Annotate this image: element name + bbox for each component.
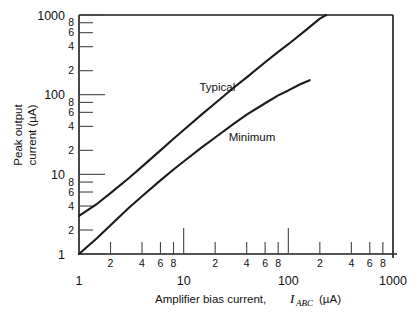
y-axis-ticks: [79, 15, 105, 254]
x-axis-title-subscript: ABC: [295, 298, 314, 308]
log-log-plot: 1101001000246824682468 11010010002468246…: [0, 0, 419, 318]
y-decade-label: 10: [51, 168, 65, 182]
y-axis-title-line2: current (µA): [26, 104, 38, 165]
x-minor-label: 2: [108, 257, 114, 269]
x-minor-label: 4: [348, 257, 354, 269]
y-axis-tick-labels: 1101001000246824682468: [37, 9, 74, 262]
x-minor-label: 8: [275, 257, 281, 269]
curve-typical: [79, 15, 326, 216]
y-decade-label: 1: [58, 248, 65, 262]
x-minor-label: 8: [380, 257, 386, 269]
x-minor-label: 6: [158, 257, 164, 269]
x-minor-label: 2: [212, 257, 218, 269]
x-axis-title-prefix: Amplifier bias current,: [155, 293, 266, 305]
y-minor-label: 2: [68, 224, 74, 236]
y-decade-label: 1000: [37, 9, 65, 23]
y-minor-label: 8: [68, 96, 74, 108]
curve-label-minimum: Minimum: [229, 131, 276, 143]
y-decade-label: 100: [44, 88, 65, 102]
y-minor-label: 4: [68, 40, 74, 52]
x-decade-label: 1: [76, 274, 83, 288]
x-axis-title: Amplifier bias current, I ABC (µA): [155, 291, 341, 308]
y-minor-label: 4: [68, 200, 74, 212]
y-minor-label: 2: [68, 144, 74, 156]
x-decade-label: 1000: [379, 274, 407, 288]
y-minor-label: 8: [68, 176, 74, 188]
x-minor-label: 6: [262, 257, 268, 269]
x-axis-title-units: (µA): [319, 293, 341, 305]
y-minor-label: 8: [68, 16, 74, 28]
x-axis-tick-labels: 1101001000246824682468: [76, 257, 407, 288]
x-axis-title-symbol: I: [289, 291, 295, 306]
x-minor-label: 8: [171, 257, 177, 269]
x-minor-label: 2: [317, 257, 323, 269]
curve-annotations: TypicalMinimum: [199, 81, 275, 143]
chart-figure: 1101001000246824682468 11010010002468246…: [0, 0, 419, 318]
y-axis-title: Peak output current (µA): [12, 104, 38, 166]
y-axis-title-line1: Peak output: [12, 104, 24, 166]
curve-label-typical: Typical: [199, 81, 235, 93]
x-decade-label: 10: [177, 274, 191, 288]
x-decade-label: 100: [278, 274, 299, 288]
y-minor-label: 4: [68, 120, 74, 132]
y-minor-label: 2: [68, 64, 74, 76]
x-axis-ticks: [79, 228, 393, 254]
x-minor-label: 6: [367, 257, 373, 269]
curve-minimum: [79, 80, 310, 254]
x-minor-label: 4: [139, 257, 145, 269]
x-minor-label: 4: [244, 257, 250, 269]
data-curves: [79, 15, 326, 254]
